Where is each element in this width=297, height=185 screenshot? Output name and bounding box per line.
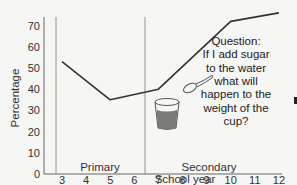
x-tick-label: 4 [83,174,89,185]
x-axis-title: School year [155,173,216,185]
y-tick-labels: 010203040506070 [28,20,40,180]
region-label-secondary: Secondary [182,161,237,173]
y-tick-label: 50 [28,62,40,74]
x-tick-label: 3 [59,174,65,185]
y-tick-label: 30 [28,104,40,116]
y-tick-label: 40 [28,83,40,95]
question-annotation: Question:If I add sugarto the waterwhat … [201,35,271,127]
question-line: cup? [224,115,249,127]
y-tick-label: 10 [28,147,40,159]
x-tick-label: 10 [225,174,237,185]
y-tick-label: 20 [28,126,40,138]
y-tick-label: 0 [34,168,40,180]
cup-with-water-icon [155,99,179,130]
x-tick-label: 11 [249,174,260,185]
question-line: happen to the [201,88,271,100]
y-tick-label: 60 [28,41,40,53]
y-tick-label: 70 [28,20,40,32]
question-line: Question: [211,35,260,47]
x-tick-label: 6 [131,174,137,185]
x-tick-label: 5 [107,174,113,185]
question-line: what will [213,75,257,87]
question-line: to the water [206,62,266,74]
x-tick-label: 12 [273,174,285,185]
y-axis-title: Percentage [9,69,21,128]
question-line: weight of the [202,102,268,114]
chart: 010203040506070 3456789101112 School yea… [0,0,297,185]
edge-mark [294,97,297,104]
region-label-primary: Primary [80,161,120,173]
question-line: If I add sugar [202,48,269,60]
